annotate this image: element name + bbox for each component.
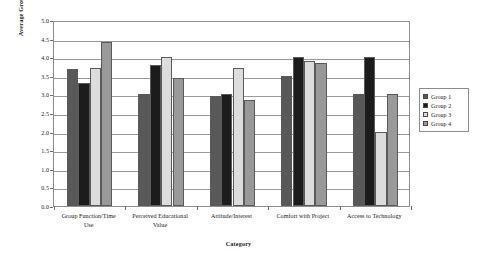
bar bbox=[364, 57, 375, 206]
y-tick-label: 3.5 bbox=[41, 74, 49, 80]
bar bbox=[233, 68, 244, 206]
legend-item-label: Group 3 bbox=[431, 112, 451, 118]
bar bbox=[281, 76, 292, 206]
bar bbox=[101, 42, 112, 206]
legend-swatch-icon bbox=[423, 103, 428, 108]
legend-swatch-icon bbox=[423, 121, 428, 126]
y-tick-label: 4.0 bbox=[41, 55, 49, 61]
y-tick-mark bbox=[50, 77, 53, 78]
y-tick-label: 2.0 bbox=[41, 130, 49, 136]
bar bbox=[315, 63, 326, 206]
x-category-label: Access to Technology bbox=[333, 212, 416, 221]
y-tick-mark bbox=[50, 207, 53, 208]
bar-chart: Average Group Response 5.04.54.03.53.02.… bbox=[0, 0, 477, 265]
bar bbox=[78, 83, 89, 206]
bar bbox=[293, 57, 304, 206]
y-tick-label: 2.5 bbox=[41, 111, 49, 117]
y-tick-mark bbox=[50, 58, 53, 59]
bar bbox=[67, 69, 78, 206]
bar bbox=[387, 94, 398, 206]
legend-item[interactable]: Group 1 bbox=[423, 92, 465, 101]
x-category-label-line: Value bbox=[118, 221, 201, 230]
x-tick-mark bbox=[197, 206, 198, 210]
bar bbox=[375, 132, 386, 206]
bar bbox=[221, 94, 232, 206]
x-tick-mark bbox=[268, 206, 269, 210]
plot-area bbox=[53, 21, 410, 207]
bar bbox=[353, 94, 364, 206]
y-tick-mark bbox=[50, 40, 53, 41]
x-axis-title: Category bbox=[0, 240, 477, 247]
legend-item-label: Group 1 bbox=[431, 94, 451, 100]
legend-item[interactable]: Group 3 bbox=[423, 110, 465, 119]
bar bbox=[210, 96, 221, 206]
y-tick-mark bbox=[50, 170, 53, 171]
bar bbox=[90, 68, 101, 206]
y-tick-label: 4.5 bbox=[41, 37, 49, 43]
y-tick-label: 1.5 bbox=[41, 148, 49, 154]
bar bbox=[244, 100, 255, 206]
bar bbox=[138, 94, 149, 206]
y-tick-label: 0.0 bbox=[41, 204, 49, 210]
legend: Group 1Group 2Group 3Group 4 bbox=[419, 88, 469, 132]
legend-swatch-icon bbox=[423, 112, 428, 117]
legend-item-label: Group 2 bbox=[431, 103, 451, 109]
y-tick-mark bbox=[50, 151, 53, 152]
y-tick-mark bbox=[50, 188, 53, 189]
y-tick-mark bbox=[50, 95, 53, 96]
x-tick-mark bbox=[340, 206, 341, 210]
legend-item[interactable]: Group 4 bbox=[423, 119, 465, 128]
legend-item[interactable]: Group 2 bbox=[423, 101, 465, 110]
y-tick-mark bbox=[50, 114, 53, 115]
y-tick-label: 0.5 bbox=[41, 185, 49, 191]
x-tick-mark bbox=[125, 206, 126, 210]
legend-item-label: Group 4 bbox=[431, 121, 451, 127]
y-tick-mark bbox=[50, 21, 53, 22]
x-tick-mark bbox=[411, 206, 412, 210]
bar bbox=[304, 61, 315, 206]
bar bbox=[161, 57, 172, 206]
legend-swatch-icon bbox=[423, 94, 428, 99]
bar bbox=[173, 78, 184, 206]
x-tick-mark bbox=[54, 206, 55, 210]
y-tick-mark bbox=[50, 133, 53, 134]
y-tick-label: 5.0 bbox=[41, 18, 49, 24]
x-category-label-line: Access to Technology bbox=[333, 212, 416, 221]
bar bbox=[150, 65, 161, 206]
y-axis-title: Average Group Response bbox=[14, 0, 28, 66]
y-tick-label: 3.0 bbox=[41, 92, 49, 98]
y-tick-label: 1.0 bbox=[41, 167, 49, 173]
